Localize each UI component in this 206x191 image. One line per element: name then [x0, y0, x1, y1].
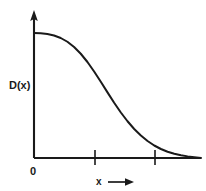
x-label-arrow-head — [125, 178, 134, 185]
data-series-dx — [34, 33, 201, 158]
figure-container: D(x) 0 x — [0, 0, 206, 191]
origin-label: 0 — [30, 165, 36, 177]
y-axis-label: D(x) — [9, 79, 30, 91]
x-axis-label: x — [96, 176, 102, 187]
decay-curve-plot — [0, 0, 206, 191]
